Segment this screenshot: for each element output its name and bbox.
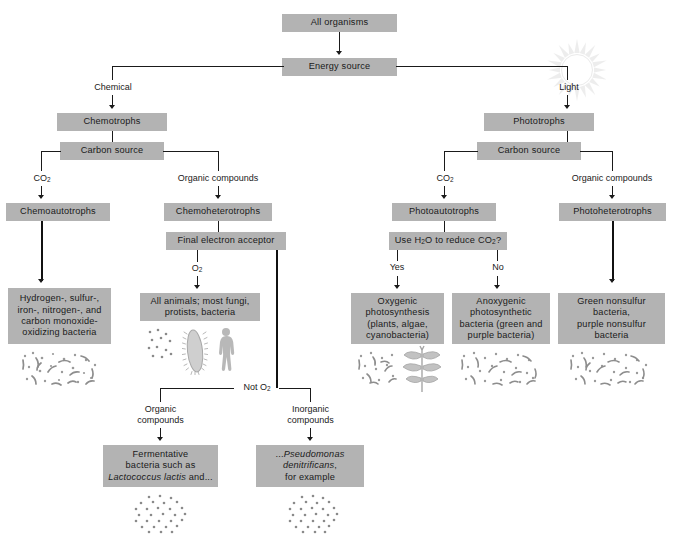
connector-chemoheterotrophs-to-acceptor (218, 221, 219, 232)
node-photoautotrophs-label: Photoautotrophs (395, 206, 493, 217)
edge-label-co2-chemo: CO2 (16, 173, 68, 186)
bacteria-cluster-icon (566, 350, 652, 388)
edge-label-o2: O2 (173, 263, 221, 276)
node-anaerobic-respiration-examples-label: ...Pseudomonasdenitrificans,for example (259, 449, 361, 483)
bacteria-dots-icon (127, 494, 193, 534)
edge-label-no: No (478, 262, 518, 273)
edge-label-inorganic-branch: Inorganiccompounds (275, 404, 346, 425)
arrowhead-inorganic-branch (307, 437, 313, 441)
connector-photoheterotrophs-to-examples (612, 221, 614, 281)
connector-energy-down-light (567, 66, 568, 80)
connector-carbon-photo-split-left (444, 151, 478, 152)
edge-label-light: Light (528, 82, 610, 93)
node-chemoautotrophs[interactable]: Chemoautotrophs (6, 203, 110, 221)
arrowhead-chemoautotroph-examples (38, 279, 44, 283)
bacteria-dots-icon (282, 494, 342, 534)
node-photoheterotroph-examples[interactable]: Green nonsulfurbacteria,purple nonsulfur… (558, 293, 665, 344)
bacteria-dots-icon (146, 328, 176, 362)
node-photoheterotroph-examples-label: Green nonsulfurbacteria,purple nonsulfur… (561, 296, 662, 342)
node-chemoheterotrophs[interactable]: Chemoheterotrophs (164, 203, 272, 221)
node-chemoautotrophs-label: Chemoautotrophs (9, 206, 107, 217)
connector-photoautotrophs-to-question (444, 221, 445, 232)
node-aerobic-examples[interactable]: All animals; most fungi,protists, bacter… (140, 293, 260, 321)
edge-label-co2-photo: CO2 (419, 173, 471, 186)
arrowhead-co2-chemo (38, 195, 44, 199)
connector-not-o2-down-inorganic (310, 388, 311, 402)
flowchart-canvas: All organisms Energy source Chemical Lig… (0, 0, 680, 545)
connector-question-yes (397, 250, 398, 261)
node-photoautotrophs[interactable]: Photoautotrophs (392, 203, 496, 221)
edge-label-chemical: Chemical (72, 82, 154, 93)
arrowhead-organic-branch (157, 437, 163, 441)
connector-carbon-chemo-split-left (41, 151, 61, 152)
connector-phototrophs-to-carbon (567, 131, 568, 142)
edge-label-organic-chemo: Organic compounds (168, 173, 268, 184)
connector-carbon-photo-split-right (580, 151, 613, 152)
arrowhead-photoheterotroph-examples (609, 279, 615, 283)
paramecium-icon (182, 327, 208, 375)
arrowhead-co2-photo (441, 195, 447, 199)
node-fermentative-examples-label: Fermentativebacteria such asLactococcus … (106, 449, 215, 483)
plant-icon (400, 344, 444, 392)
node-chemotrophs-label: Chemotrophs (60, 116, 164, 127)
node-use-water-question-label: Use H2O to reduce CO2? (392, 235, 504, 248)
node-use-water-question[interactable]: Use H2O to reduce CO2? (389, 232, 507, 250)
arrowhead-organic-photo (609, 195, 615, 199)
connector-acceptor-to-not-o2 (276, 250, 278, 388)
connector-acceptor-to-o2 (197, 250, 198, 262)
node-all-organisms[interactable]: All organisms (282, 14, 397, 32)
bacteria-cluster-icon (355, 350, 399, 388)
arrowhead-o2 (194, 285, 200, 289)
arrowhead-all-to-energy (336, 51, 342, 55)
connector-chemoautotrophs-to-examples (41, 221, 43, 281)
node-oxygenic-examples-label: Oxygenicphotosynthesis(plants, algae,cya… (354, 296, 441, 342)
node-phototrophs-label: Phototrophs (487, 116, 591, 127)
connector-not-o2-down-organic (160, 388, 161, 402)
node-anaerobic-respiration-examples[interactable]: ...Pseudomonasdenitrificans,for example (256, 445, 364, 487)
bacteria-cluster-icon (18, 350, 104, 388)
node-chemoautotroph-examples-label: Hydrogen-, sulfur-,iron-, nitrogen-, and… (11, 293, 108, 339)
node-photoheterotrophs-label: Photoheterotrophs (562, 206, 663, 217)
node-carbon-source-photo-label: Carbon source (480, 145, 578, 156)
edge-label-yes: Yes (377, 262, 417, 273)
node-final-electron-acceptor-label: Final electron acceptor (169, 235, 283, 246)
node-chemoautotroph-examples[interactable]: Hydrogen-, sulfur-,iron-, nitrogen-, and… (8, 288, 111, 344)
connector-carbon-photo-down-organic (612, 151, 613, 171)
connector-carbon-chemo-down-co2 (41, 151, 42, 171)
node-fermentative-examples[interactable]: Fermentativebacteria such asLactococcus … (103, 445, 218, 487)
node-final-electron-acceptor[interactable]: Final electron acceptor (166, 232, 286, 250)
connector-chemotrophs-to-carbon (112, 131, 113, 142)
edge-label-not-o2: Not O2 (232, 382, 282, 395)
arrowhead-organic-chemo (215, 195, 221, 199)
node-chemotrophs[interactable]: Chemotrophs (57, 113, 167, 131)
arrowhead-yes (394, 285, 400, 289)
connector-energy-down-chemical (112, 66, 113, 80)
edge-label-organic-photo: Organic compounds (562, 173, 662, 184)
bacteria-cluster-icon (457, 350, 541, 388)
node-all-organisms-label: All organisms (285, 17, 394, 28)
node-oxygenic-examples[interactable]: Oxygenicphotosynthesis(plants, algae,cya… (351, 293, 444, 344)
human-figure-icon (216, 327, 236, 373)
connector-energy-split-right (396, 66, 568, 67)
node-energy-source-label: Energy source (285, 61, 394, 72)
node-photoheterotrophs[interactable]: Photoheterotrophs (559, 203, 666, 221)
arrowhead-light (564, 105, 570, 109)
connector-carbon-chemo-down-organic (218, 151, 219, 171)
node-carbon-source-chemo[interactable]: Carbon source (60, 142, 164, 160)
node-carbon-source-chemo-label: Carbon source (63, 145, 161, 156)
arrowhead-no (494, 285, 500, 289)
connector-not-o2-bar-left (160, 388, 234, 389)
node-aerobic-examples-label: All animals; most fungi,protists, bacter… (143, 296, 257, 319)
connector-energy-split-left (112, 66, 284, 67)
edge-label-organic-branch: Organiccompounds (125, 404, 196, 425)
node-anoxygenic-examples[interactable]: Anoxygenicphotosyntheticbacteria (green … (452, 293, 550, 344)
arrowhead-chemical (109, 105, 115, 109)
connector-question-no (497, 250, 498, 261)
sun-icon (538, 33, 616, 107)
node-phototrophs[interactable]: Phototrophs (484, 113, 594, 131)
connector-carbon-chemo-split-right (163, 151, 219, 152)
node-energy-source[interactable]: Energy source (282, 58, 397, 76)
connector-carbon-photo-down-co2 (444, 151, 445, 171)
node-carbon-source-photo[interactable]: Carbon source (477, 142, 581, 160)
node-anoxygenic-examples-label: Anoxygenicphotosyntheticbacteria (green … (455, 296, 547, 342)
